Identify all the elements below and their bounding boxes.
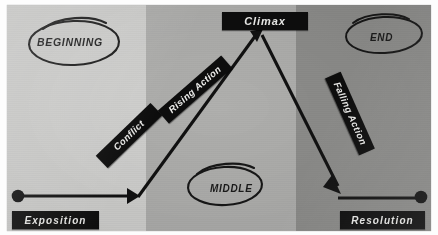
- stage-label-middle: MIDDLE: [210, 183, 253, 194]
- plot-diagram-image: BEGINNING MIDDLE END Exposition Conflict…: [0, 0, 438, 235]
- diagram-plate: BEGINNING MIDDLE END Exposition Conflict…: [7, 5, 431, 231]
- label-climax: Climax: [222, 12, 308, 30]
- stage-label-beginning: BEGINNING: [37, 36, 103, 48]
- stage-label-end: END: [370, 32, 393, 43]
- label-exposition: Exposition: [12, 211, 99, 229]
- end-dot: [415, 191, 428, 204]
- label-resolution: Resolution: [340, 211, 425, 229]
- label-exposition-text: Exposition: [24, 214, 86, 225]
- falling-action-line: [262, 35, 338, 186]
- label-resolution-text: Resolution: [351, 214, 414, 225]
- label-climax-text: Climax: [244, 15, 285, 27]
